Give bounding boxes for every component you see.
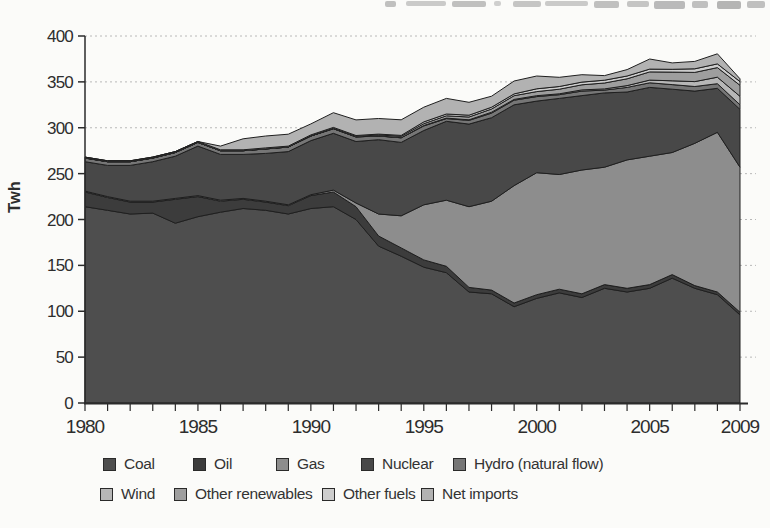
legend-item-coal: Coal [103,456,155,472]
legend-item-wind: Wind [100,486,155,502]
legend-label: Net imports [442,485,518,503]
coal-swatch [103,458,116,471]
x-tick-label: 1985 [179,416,218,437]
net-imports-swatch [421,488,434,501]
x-tick-label: 2009 [721,416,760,437]
legend-item-other-renewables: Other renewables [174,486,313,502]
y-axis-title: Twh [5,181,23,213]
legend-label: Oil [214,455,232,473]
legend-item-oil: Oil [193,456,232,472]
y-tick-label: 400 [47,27,73,46]
y-tick-label: 350 [47,73,73,92]
y-tick-label: 0 [64,394,73,413]
legend-item-hydro: Hydro (natural flow) [453,456,603,472]
legend-item-net-imports: Net imports [421,486,518,502]
y-tick-label: 150 [47,256,73,275]
x-tick-label: 1990 [292,416,331,437]
legend-item-gas: Gas [276,456,325,472]
legend-label: Wind [121,485,155,503]
legend-item-nuclear: Nuclear [361,456,433,472]
legend-label: Other fuels [343,485,416,503]
wind-swatch [100,488,113,501]
chart-canvas: 0501001502002503003504001980198519901995… [0,0,770,446]
legend-label: Gas [297,455,325,473]
legend-label: Hydro (natural flow) [474,455,603,473]
electricity-stacked-area-chart: 0501001502002503003504001980198519901995… [0,0,770,528]
x-tick-label: 1980 [66,416,105,437]
x-tick-label: 2000 [518,416,557,437]
legend-label: Coal [124,455,155,473]
nuclear-swatch [361,458,374,471]
x-tick-label: 2005 [631,416,670,437]
page: 0501001502002503003504001980198519901995… [0,0,770,528]
hydro-swatch [453,458,466,471]
y-tick-label: 100 [47,302,73,321]
y-tick-label: 250 [47,165,73,184]
legend-item-other-fuels: Other fuels [322,486,416,502]
legend-label: Nuclear [382,455,433,473]
y-tick-label: 50 [56,348,74,367]
y-tick-label: 200 [47,211,73,230]
x-tick-label: 1995 [405,416,444,437]
other-fuels-swatch [322,488,335,501]
oil-swatch [193,458,206,471]
legend-label: Other renewables [195,485,313,503]
gas-swatch [276,458,289,471]
y-tick-label: 300 [47,119,73,138]
other-renewables-swatch [174,488,187,501]
